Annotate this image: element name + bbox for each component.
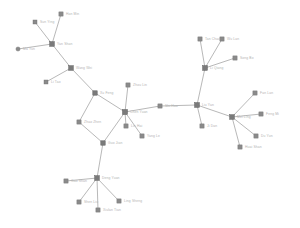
graph-node[interactable] [203, 66, 208, 71]
graph-edge [232, 117, 256, 136]
graph-node[interactable] [254, 134, 258, 138]
graph-node-label: Lin Hai [131, 124, 142, 128]
graph-edge [35, 22, 52, 44]
graph-node-label: Chen Yuan [130, 110, 148, 114]
graph-node[interactable] [64, 179, 68, 183]
graph-edge [52, 44, 71, 68]
graph-node[interactable] [233, 56, 237, 60]
graph-node[interactable] [77, 200, 81, 204]
graph-node[interactable] [126, 83, 130, 87]
graph-node[interactable] [158, 104, 162, 108]
graph-node[interactable] [123, 110, 128, 115]
graph-node[interactable] [140, 134, 144, 138]
graph-node[interactable] [50, 42, 55, 47]
graph-edge [79, 122, 103, 143]
graph-node-label: Li Qiang [210, 66, 223, 70]
graph-node-label: Xu Feng [100, 91, 114, 95]
graph-node[interactable] [69, 66, 74, 71]
graph-node-label: Wu Lan [227, 37, 239, 41]
graph-node[interactable] [195, 103, 200, 108]
graph-edge [200, 39, 205, 68]
labels-layer: Ma YunSun YingHan MinYan ShanWang WeiLi … [23, 12, 279, 212]
graph-node-label: Du Yun [261, 134, 273, 138]
graph-node[interactable] [117, 199, 121, 203]
graph-node[interactable] [198, 37, 202, 41]
graph-node[interactable] [77, 120, 81, 124]
graph-node-label: Wang Wei [76, 66, 92, 70]
graph-edge [197, 105, 202, 126]
graph-node[interactable] [124, 124, 128, 128]
graph-node-label: Ma Yun [23, 47, 35, 51]
graph-edge [97, 178, 98, 210]
graph-edge [197, 68, 205, 105]
graph-node[interactable] [93, 91, 97, 95]
graph-node[interactable] [230, 115, 235, 120]
graph-node[interactable] [220, 37, 224, 41]
graph-node-label: Guo Jian [108, 141, 122, 145]
graph-node-label: Feng Mi [266, 112, 279, 116]
graph-node-label: Shen Liu [84, 200, 98, 204]
graph-edge [97, 178, 119, 201]
graph-node-label: Liu Yan [202, 103, 214, 107]
graph-node-label: Deng Yuan [102, 176, 120, 180]
graph-node-label: Gao Shan [71, 179, 87, 183]
graph-node-label: Sun Ying [40, 20, 54, 24]
graph-node-label: Han Min [66, 12, 79, 16]
graph-node[interactable] [44, 80, 48, 84]
graph-node-label: Ling Sheng [124, 199, 142, 203]
graph-node-label: Mei Ling [237, 115, 251, 119]
graph-node[interactable] [238, 145, 242, 149]
graph-edge [95, 93, 125, 112]
graph-node[interactable] [96, 208, 100, 212]
graph-node-label: Fan Lan [260, 91, 273, 95]
graph-node[interactable] [200, 124, 204, 128]
network-graph-canvas: Ma YunSun YingHan MinYan ShanWang WeiLi … [0, 0, 300, 228]
graph-edge [103, 112, 125, 143]
graph-node-label: Yang Le [147, 134, 160, 138]
graph-node[interactable] [101, 141, 105, 145]
graph-node[interactable] [59, 12, 63, 16]
graph-edge [125, 85, 128, 112]
graph-edge [79, 93, 95, 122]
graph-node[interactable] [259, 112, 263, 116]
graph-node-label: Zhou Lin [133, 83, 147, 87]
graph-edge [232, 93, 255, 117]
graph-node-label: Shi Hua [165, 104, 178, 108]
graph-node[interactable] [16, 47, 20, 51]
graph-node-label: Yan Shan [57, 42, 72, 46]
graph-edge [232, 117, 240, 147]
graph-node-label: Xiulan Tian [103, 208, 121, 212]
graph-edge [71, 68, 95, 93]
graph-node-label: Song Bo [240, 56, 254, 60]
graph-edge [97, 143, 103, 178]
graph-edge [205, 39, 222, 68]
graph-node-label: Ji Dan [207, 124, 217, 128]
graph-node-label: Tan Chao [205, 37, 220, 41]
graph-node-label: Zhao Zhen [84, 120, 101, 124]
graph-node[interactable] [253, 91, 257, 95]
graph-node[interactable] [95, 176, 100, 181]
graph-edge [52, 14, 61, 44]
graph-node-label: Huai Shan [245, 145, 262, 149]
graph-node[interactable] [33, 20, 37, 24]
graph-node-label: Li Tao [51, 80, 61, 84]
network-graph-svg: Ma YunSun YingHan MinYan ShanWang WeiLi … [0, 0, 300, 228]
